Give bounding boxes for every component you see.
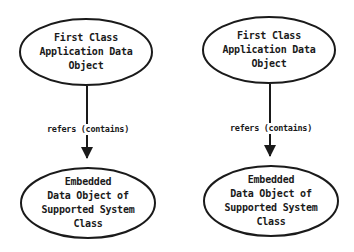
target-node-line: Class	[211, 215, 331, 229]
target-node-left: Embedded Data Object of Supported System…	[28, 175, 148, 231]
source-node-line: Application Data	[209, 43, 329, 57]
target-node-line: Data Object of	[211, 187, 331, 201]
target-node-line: Embedded	[28, 175, 148, 189]
source-node-line: First Class	[26, 31, 146, 45]
arrowhead-icon-left	[81, 147, 93, 159]
source-node-right: First Class Application Data Object	[209, 29, 329, 71]
source-node-left: First Class Application Data Object	[26, 31, 146, 73]
source-node-line: First Class	[209, 29, 329, 43]
target-node-line: Embedded	[211, 173, 331, 187]
edge-label-left: refers (contains)	[44, 124, 132, 135]
target-node-line: Supported System	[211, 201, 331, 215]
target-node-line: Class	[28, 217, 148, 231]
edge-label-right: refers (contains)	[227, 123, 315, 134]
target-node-line: Supported System	[28, 203, 148, 217]
arrowhead-icon-right	[264, 145, 276, 157]
source-node-line: Application Data	[26, 45, 146, 59]
target-node-line: Data Object of	[28, 189, 148, 203]
source-node-line: Object	[209, 57, 329, 71]
target-node-right: Embedded Data Object of Supported System…	[211, 173, 331, 229]
source-node-line: Object	[26, 59, 146, 73]
